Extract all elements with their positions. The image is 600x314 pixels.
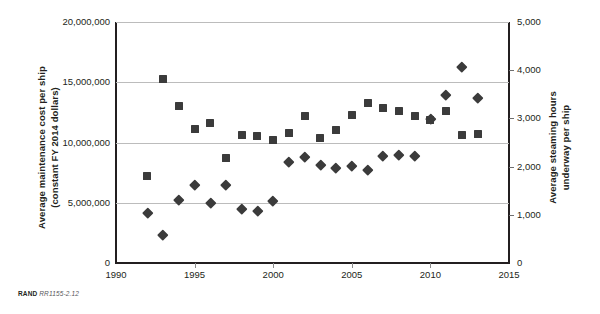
y-axis-left-tick-label: 15,000,000 — [34, 76, 110, 87]
x-axis-tick — [352, 263, 353, 268]
data-point-square — [411, 112, 419, 120]
data-point-diamond — [268, 195, 279, 206]
data-point-diamond — [221, 180, 232, 191]
data-point-square — [332, 126, 340, 134]
data-point-square — [191, 125, 199, 133]
data-point-square — [253, 132, 261, 140]
y-axis-right-tick-label: 4,000 — [517, 64, 541, 75]
gridline — [116, 82, 509, 83]
data-point-diamond — [378, 150, 389, 161]
gridline — [116, 203, 509, 204]
data-point-square — [364, 99, 372, 107]
y-axis-right-tick-label: 0 — [517, 257, 522, 268]
y-axis-right-tick-label: 2,000 — [517, 161, 541, 172]
data-point-square — [458, 131, 466, 139]
data-point-diamond — [315, 160, 326, 171]
gridline — [116, 143, 509, 144]
data-point-diamond — [158, 230, 169, 241]
x-axis-tick-label: 1995 — [170, 269, 220, 280]
y-axis-right-title: Average steaming hours underway per ship — [547, 38, 572, 258]
x-axis-tick — [273, 263, 274, 268]
data-point-square — [159, 75, 167, 83]
y-axis-right-tick — [509, 167, 514, 168]
data-point-square — [316, 134, 324, 142]
y-axis-left-title: Average maintenance cost per ship (const… — [36, 38, 61, 258]
figure-container: Average maintenance cost per ship (const… — [0, 0, 600, 314]
y-axis-left-tick-label: 20,000,000 — [34, 16, 110, 27]
y-axis-left-tick-label: 5,000,000 — [34, 197, 110, 208]
data-point-diamond — [205, 197, 216, 208]
data-point-diamond — [441, 90, 452, 101]
data-point-diamond — [456, 61, 467, 72]
data-point-diamond — [299, 152, 310, 163]
y-axis-left-tick-label: 0 — [34, 257, 110, 268]
x-axis-tick-label: 2005 — [327, 269, 377, 280]
data-point-diamond — [284, 157, 295, 168]
data-point-square — [238, 131, 246, 139]
rand-brand: RAND — [18, 290, 37, 297]
data-point-square — [222, 154, 230, 162]
y-axis-right-tick-label: 1,000 — [517, 209, 541, 220]
data-point-square — [285, 129, 293, 137]
data-point-square — [442, 107, 450, 115]
x-axis-line — [115, 262, 510, 264]
data-point-diamond — [472, 92, 483, 103]
x-axis-tick-label: 2000 — [248, 269, 298, 280]
plot-area — [116, 22, 509, 263]
data-point-diamond — [409, 151, 420, 162]
x-axis-tick — [430, 263, 431, 268]
data-point-diamond — [142, 207, 153, 218]
data-point-square — [379, 104, 387, 112]
data-point-diamond — [236, 204, 247, 215]
data-point-square — [175, 102, 183, 110]
gridline — [116, 22, 509, 23]
y-axis-right-tick — [509, 118, 514, 119]
data-point-square — [143, 172, 151, 180]
data-point-square — [206, 119, 214, 127]
figure-id: RR1155-2.12 — [39, 290, 79, 297]
data-point-diamond — [252, 206, 263, 217]
y-axis-right-tick-label: 5,000 — [517, 16, 541, 27]
figure-source-note: RANDRR1155-2.12 — [18, 290, 79, 297]
data-point-diamond — [394, 149, 405, 160]
data-point-square — [474, 130, 482, 138]
y-axis-left-tick-label: 10,000,000 — [34, 137, 110, 148]
x-axis-tick-label: 1990 — [91, 269, 141, 280]
data-point-square — [395, 107, 403, 115]
data-point-square — [269, 136, 277, 144]
data-point-diamond — [362, 165, 373, 176]
y-axis-right-tick — [509, 70, 514, 71]
x-axis-tick — [195, 263, 196, 268]
data-point-diamond — [189, 180, 200, 191]
data-point-diamond — [331, 163, 342, 174]
data-point-diamond — [346, 160, 357, 171]
data-point-square — [301, 112, 309, 120]
y-axis-right-tick-label: 3,000 — [517, 112, 541, 123]
y-axis-right-tick — [509, 215, 514, 216]
x-axis-tick-label: 2010 — [405, 269, 455, 280]
data-point-square — [348, 111, 356, 119]
x-axis-tick-label: 2015 — [484, 269, 534, 280]
